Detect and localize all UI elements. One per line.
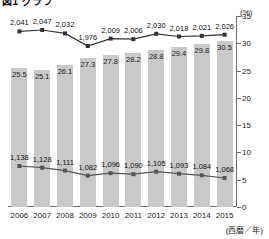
line-marker bbox=[109, 37, 113, 41]
y-axis-tick bbox=[237, 16, 241, 17]
y-axis-tick bbox=[237, 180, 241, 181]
y-axis-tick-label: 10 bbox=[242, 148, 251, 157]
x-axis-tick-label: 2014 bbox=[193, 211, 211, 220]
x-axis-tick-label: 2007 bbox=[33, 211, 51, 220]
y-axis-tick bbox=[237, 43, 241, 44]
line-marker bbox=[63, 31, 67, 35]
y-axis-tick-label: 0 bbox=[242, 203, 246, 212]
line-marker bbox=[86, 174, 90, 178]
line-point-label: 2,009 bbox=[101, 26, 120, 35]
x-axis-tick-label: 2013 bbox=[170, 211, 188, 220]
bar-value-label: 28.2 bbox=[126, 55, 141, 64]
line-point-label: 1,138 bbox=[10, 153, 29, 162]
line-point-label: 1,090 bbox=[124, 161, 143, 170]
line-marker bbox=[17, 29, 21, 33]
y-axis-tick-label: 15 bbox=[242, 121, 251, 130]
line-point-label: 2,018 bbox=[170, 24, 189, 33]
line-marker bbox=[86, 44, 90, 48]
chart-title: 図1 グラフ bbox=[2, 0, 53, 8]
line-marker bbox=[223, 176, 227, 180]
line-point-label: 1,105 bbox=[147, 159, 166, 168]
line-marker bbox=[177, 172, 181, 176]
y-axis-tick-label: 5 bbox=[242, 175, 246, 184]
line-point-label: 2,021 bbox=[192, 23, 211, 32]
line-point-label: 1,068 bbox=[215, 165, 234, 174]
line-point-label: 2,032 bbox=[56, 20, 75, 29]
plot-area bbox=[8, 16, 236, 207]
line-point-label: 1,111 bbox=[56, 158, 74, 167]
line-point-label: 1,084 bbox=[192, 162, 211, 171]
x-axis-tick-label: 2012 bbox=[147, 211, 165, 220]
line-marker bbox=[154, 170, 158, 174]
line-marker bbox=[131, 37, 135, 41]
line-point-label: 1,976 bbox=[78, 33, 97, 42]
line-point-label: 2,006 bbox=[124, 26, 143, 35]
y-axis-tick-label: 25 bbox=[242, 66, 251, 75]
line-marker bbox=[17, 164, 21, 168]
x-axis-tick-label: 2010 bbox=[102, 211, 120, 220]
bar-value-label: 27.8 bbox=[103, 57, 118, 66]
line-marker bbox=[177, 35, 181, 39]
x-axis-note: (西暦／年) bbox=[226, 224, 263, 235]
y-axis-tick bbox=[237, 71, 241, 72]
line-marker bbox=[154, 32, 158, 36]
y-axis-tick-label: 20 bbox=[242, 93, 251, 102]
line-marker bbox=[40, 166, 44, 170]
line-series-group bbox=[8, 16, 236, 207]
line-point-label: 2,041 bbox=[10, 18, 29, 27]
x-axis-tick-label: 2015 bbox=[216, 211, 234, 220]
x-axis-tick-label: 2011 bbox=[125, 211, 142, 220]
y-axis-tick bbox=[237, 152, 241, 153]
line-point-label: 1,096 bbox=[101, 160, 120, 169]
line-marker bbox=[131, 172, 135, 176]
bar-value-label: 30.5 bbox=[217, 43, 232, 52]
y-axis-tick-label: 35 bbox=[242, 12, 251, 21]
line-marker bbox=[40, 28, 44, 32]
line-marker bbox=[200, 34, 204, 38]
y-axis-line bbox=[236, 16, 237, 207]
bar-value-label: 26.1 bbox=[58, 67, 73, 76]
x-axis-tick-label: 2008 bbox=[56, 211, 74, 220]
line-marker bbox=[63, 169, 67, 173]
line-path bbox=[19, 30, 224, 46]
line-point-label: 2,047 bbox=[33, 17, 52, 26]
chart-container: 図1 グラフ (%) 05101520253035 25.525.126.127… bbox=[0, 0, 269, 239]
bar-value-label: 25.5 bbox=[12, 70, 27, 79]
y-axis-tick-label: 30 bbox=[242, 39, 251, 48]
bar-value-label: 25.1 bbox=[35, 72, 50, 81]
y-axis-tick bbox=[237, 98, 241, 99]
line-marker bbox=[200, 173, 204, 177]
line-point-label: 1,128 bbox=[33, 155, 52, 164]
y-axis-tick bbox=[237, 125, 241, 126]
line-marker bbox=[109, 171, 113, 175]
x-axis-tick-label: 2006 bbox=[10, 211, 28, 220]
line-marker bbox=[223, 33, 227, 37]
y-axis-tick bbox=[237, 207, 241, 208]
bar-value-label: 29.8 bbox=[194, 46, 209, 55]
line-point-label: 2,030 bbox=[147, 21, 166, 30]
bar-value-label: 28.8 bbox=[149, 52, 164, 61]
bar-value-label: 27.3 bbox=[80, 60, 95, 69]
x-axis-tick-label: 2009 bbox=[79, 211, 97, 220]
bar-value-label: 29.4 bbox=[172, 49, 187, 58]
line-point-label: 2,026 bbox=[215, 22, 234, 31]
line-point-label: 1,082 bbox=[78, 163, 97, 172]
line-point-label: 1,093 bbox=[170, 161, 189, 170]
